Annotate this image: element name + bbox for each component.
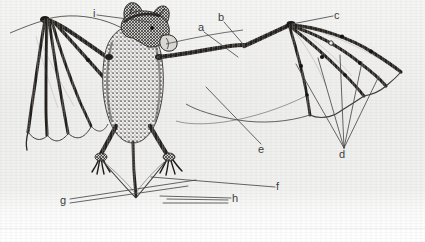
label-h: h [232,193,238,204]
label-a: a [198,22,204,33]
label-b: b [218,12,224,23]
label-i: i [93,8,95,19]
label-d: d [339,149,345,160]
label-f: f [276,181,279,192]
leader-line-g-0 [70,186,188,203]
right-wing [176,21,401,136]
leader-line-f [151,177,275,187]
figure-root: abcdefghi [0,0,425,242]
left-foot [92,153,110,174]
label-c: c [334,10,340,21]
label-e: e [258,144,264,155]
leader-line-c [292,16,333,24]
label-g: g [60,195,66,206]
leader-line-h [160,196,231,198]
leader-line-b [224,22,243,44]
leader-line-h-0 [167,199,228,200]
